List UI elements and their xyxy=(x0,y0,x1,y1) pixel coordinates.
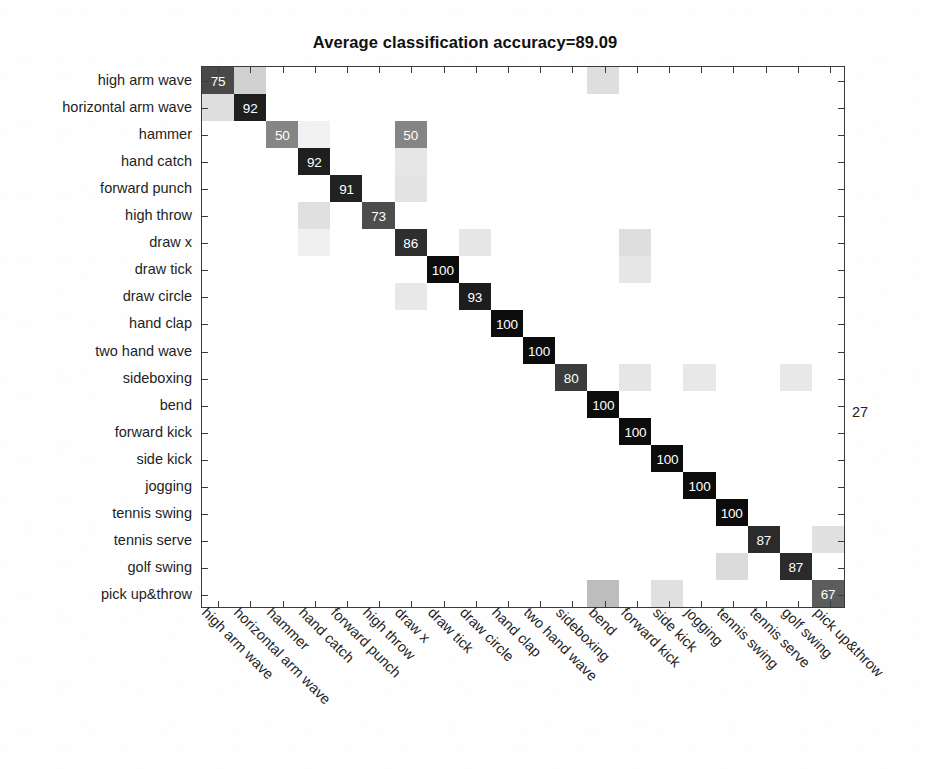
matrix-cell-faint xyxy=(812,526,844,553)
matrix-cell-empty xyxy=(555,499,587,526)
matrix-cell-empty xyxy=(716,283,748,310)
matrix-cell-empty xyxy=(780,148,812,175)
matrix-cell-empty xyxy=(362,229,394,256)
matrix-cell-empty xyxy=(587,256,619,283)
matrix-cell-empty xyxy=(651,310,683,337)
matrix-cell-empty xyxy=(523,445,555,472)
matrix-cell-empty xyxy=(234,418,266,445)
matrix-cell-empty xyxy=(683,526,715,553)
tick-bottom xyxy=(669,601,670,607)
matrix-cell-empty xyxy=(362,175,394,202)
matrix-cell-empty xyxy=(266,310,298,337)
matrix-cell-empty xyxy=(748,364,780,391)
matrix-cell-empty xyxy=(780,310,812,337)
y-axis-label: hammer xyxy=(0,126,194,142)
matrix-cell-empty xyxy=(202,499,234,526)
matrix-cell-empty xyxy=(298,337,330,364)
matrix-cell-empty xyxy=(202,445,234,472)
cell-value: 75 xyxy=(211,74,226,88)
matrix-cell-diagonal: 100 xyxy=(587,391,619,418)
matrix-cell-empty xyxy=(748,229,780,256)
y-axis-label: two hand wave xyxy=(0,343,194,359)
cell-value: 93 xyxy=(468,290,483,304)
matrix-cell-empty xyxy=(587,553,619,580)
tick-bottom xyxy=(347,601,348,607)
cell-value: 100 xyxy=(656,452,678,466)
matrix-cell-empty xyxy=(362,364,394,391)
matrix-cell-empty xyxy=(491,499,523,526)
matrix-cell-diagonal: 92 xyxy=(234,94,266,121)
tick-bottom xyxy=(315,601,316,607)
matrix-cell-empty xyxy=(427,553,459,580)
y-axis-label: forward punch xyxy=(0,180,194,196)
matrix-cell-empty xyxy=(716,148,748,175)
matrix-cell-diagonal: 87 xyxy=(748,526,780,553)
matrix-cell-empty xyxy=(459,337,491,364)
matrix-cell-empty xyxy=(523,175,555,202)
y-axis-label: golf swing xyxy=(0,559,194,575)
tick-left xyxy=(202,108,208,109)
matrix-cell-empty xyxy=(555,445,587,472)
matrix-cell-empty xyxy=(555,94,587,121)
matrix-cell-empty xyxy=(362,418,394,445)
matrix-cell-empty xyxy=(555,472,587,499)
tick-right xyxy=(838,189,844,190)
matrix-cell-empty xyxy=(395,553,427,580)
matrix-cell-faint xyxy=(716,553,748,580)
matrix-cell-empty xyxy=(330,364,362,391)
matrix-cell-empty xyxy=(330,526,362,553)
matrix-cell-empty xyxy=(651,148,683,175)
tick-bottom xyxy=(798,601,799,607)
matrix-cell-empty xyxy=(459,472,491,499)
cell-value: 100 xyxy=(432,263,454,277)
matrix-cell-empty xyxy=(459,94,491,121)
matrix-cell-empty xyxy=(780,94,812,121)
y-axis-label: hand clap xyxy=(0,315,194,331)
tick-right xyxy=(838,406,844,407)
matrix-cell-empty xyxy=(427,94,459,121)
matrix-cell-empty xyxy=(202,337,234,364)
matrix-cell-faint xyxy=(780,364,812,391)
cell-value: 100 xyxy=(592,398,614,412)
matrix-cell-empty xyxy=(716,418,748,445)
matrix-cell-empty xyxy=(362,391,394,418)
tick-top xyxy=(605,67,606,73)
matrix-cell-empty xyxy=(523,256,555,283)
matrix-cell-empty xyxy=(619,580,651,607)
tick-top xyxy=(250,67,251,73)
matrix-cell-empty xyxy=(330,94,362,121)
matrix-cell-empty xyxy=(780,121,812,148)
matrix-cell-empty xyxy=(459,202,491,229)
matrix-cell-empty xyxy=(555,553,587,580)
cell-value: 91 xyxy=(339,182,354,196)
matrix-cell-empty xyxy=(298,553,330,580)
tick-right xyxy=(838,297,844,298)
matrix-cell-empty xyxy=(459,175,491,202)
matrix-cell-empty xyxy=(234,121,266,148)
matrix-cell-empty xyxy=(234,445,266,472)
matrix-cell-empty xyxy=(362,445,394,472)
matrix-cell-empty xyxy=(266,418,298,445)
matrix-cell-empty xyxy=(459,418,491,445)
y-axis-label: tennis serve xyxy=(0,532,194,548)
matrix-cell-empty xyxy=(651,121,683,148)
tick-right xyxy=(838,568,844,569)
matrix-cell-diagonal: 100 xyxy=(427,256,459,283)
matrix-cell-empty xyxy=(395,526,427,553)
matrix-cell-empty xyxy=(716,121,748,148)
matrix-cell-faint xyxy=(619,256,651,283)
matrix-cell-empty xyxy=(427,391,459,418)
matrix-cell-empty xyxy=(780,391,812,418)
matrix-cell-empty xyxy=(748,94,780,121)
cell-value: 80 xyxy=(564,371,579,385)
matrix-cell-empty xyxy=(683,229,715,256)
matrix-cell-empty xyxy=(395,94,427,121)
y-axis-label: pick up&throw xyxy=(0,586,194,602)
tick-right xyxy=(838,108,844,109)
matrix-cell-empty xyxy=(491,418,523,445)
tick-left xyxy=(202,324,208,325)
matrix-cell-faint xyxy=(298,121,330,148)
matrix-cell-empty xyxy=(619,283,651,310)
cell-value: 87 xyxy=(756,533,771,547)
matrix-cell-empty xyxy=(651,202,683,229)
